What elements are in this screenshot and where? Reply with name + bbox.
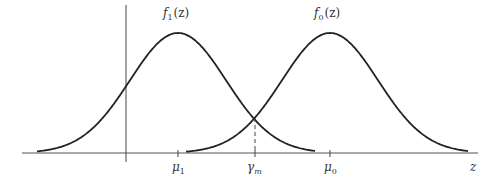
gaussian-diagram: f1(z) f0(z) μ1 γm μ0 z	[0, 0, 499, 179]
label-gamma-m: γm	[247, 160, 262, 176]
label-mu1: μ1	[172, 160, 185, 176]
label-mu0: μ0	[324, 160, 337, 176]
label-f1: f1(z)	[162, 6, 189, 22]
curve-f0	[186, 33, 468, 152]
label-z: z	[469, 160, 477, 174]
label-f0: f0(z)	[313, 6, 340, 22]
